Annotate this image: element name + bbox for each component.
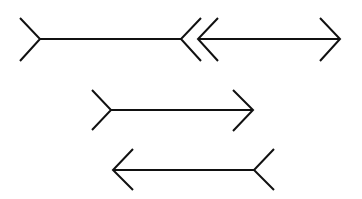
figure-bottom <box>113 149 274 190</box>
figure-top-right <box>198 18 340 61</box>
fins-out-left <box>20 18 40 61</box>
fins-out-right <box>254 149 274 190</box>
fins-out-left <box>92 90 111 130</box>
muller-lyer-diagram <box>0 0 362 199</box>
figure-top-left <box>20 18 201 61</box>
figure-middle <box>92 90 253 131</box>
